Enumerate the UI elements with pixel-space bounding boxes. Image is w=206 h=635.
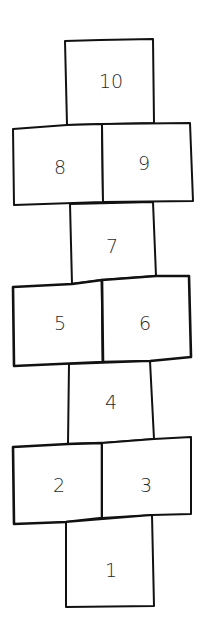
square-2: 2	[13, 443, 102, 524]
square-5: 5	[13, 280, 103, 366]
square-7: 7	[70, 202, 156, 284]
square-10: 10	[65, 39, 154, 125]
square-5-label: 5	[54, 312, 66, 334]
square-4-label: 4	[105, 391, 117, 413]
square-9: 9	[102, 123, 193, 202]
square-4: 4	[68, 361, 154, 444]
square-1: 1	[66, 515, 154, 607]
square-1-label: 1	[105, 559, 117, 581]
square-3: 3	[102, 437, 191, 518]
square-10-label: 10	[99, 70, 123, 92]
hopscotch-court: 10 8 9 7 5 6 4	[0, 0, 206, 635]
square-7-label: 7	[106, 235, 118, 257]
square-3-label: 3	[140, 474, 152, 496]
square-9-label: 9	[138, 152, 150, 174]
square-6-label: 6	[139, 312, 151, 334]
square-8: 8	[13, 124, 103, 205]
square-6: 6	[102, 276, 191, 362]
square-8-label: 8	[54, 156, 66, 178]
square-2-label: 2	[53, 474, 65, 496]
hopscotch-diagram: 10 8 9 7 5 6 4	[0, 0, 206, 635]
